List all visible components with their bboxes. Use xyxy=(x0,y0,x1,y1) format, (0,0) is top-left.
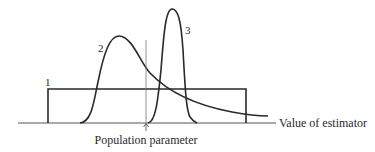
curve-2-skewed xyxy=(80,36,268,123)
population-parameter-label: Population parameter xyxy=(95,133,198,147)
curve-1-label: 1 xyxy=(45,76,51,88)
curve-1-uniform xyxy=(48,89,246,123)
curve-2-label: 2 xyxy=(98,42,104,54)
curve-3-label: 3 xyxy=(185,24,191,36)
axis-label: Value of estimator xyxy=(279,116,367,130)
estimator-diagram: 1 2 3 Value of estimator Population para… xyxy=(0,0,375,152)
